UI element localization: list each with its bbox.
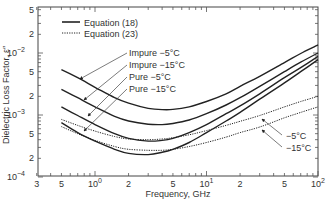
y-tick-label: 2 bbox=[29, 29, 34, 39]
annotation-label: Impure −15°C bbox=[129, 60, 185, 70]
curve-impure-15-c bbox=[61, 53, 318, 125]
x-tick-label: 100 bbox=[88, 177, 102, 189]
legend: Equation (18)Equation (23) bbox=[62, 18, 138, 39]
x-tick-label: 5 bbox=[282, 179, 287, 189]
y-tick-label: 5 bbox=[29, 129, 34, 139]
x-tick-label: 3 bbox=[34, 179, 39, 189]
x-axis-label: Frequency, GHz bbox=[146, 189, 211, 199]
axes: 3510025101251025210−25210−35210−4 bbox=[7, 5, 325, 189]
y-tick-label: 10−4 bbox=[7, 170, 25, 182]
curves bbox=[61, 45, 318, 155]
x-tick-label: 101 bbox=[200, 177, 214, 189]
annotation-leader bbox=[84, 89, 127, 131]
y-tick-label: 5 bbox=[29, 67, 34, 77]
x-tick-label: 2 bbox=[238, 179, 243, 189]
x-tick-label: 102 bbox=[311, 177, 325, 189]
y-tick-label: 2 bbox=[29, 91, 34, 101]
x-tick-label: 2 bbox=[126, 179, 131, 189]
annotations: Impure −5°CImpure −15°CPure −5°CPure −15… bbox=[80, 48, 312, 153]
y-axis-label: Dielectric Loss Factor, ε″ bbox=[1, 45, 11, 144]
legend-label: Equation (23) bbox=[84, 29, 138, 39]
curve-pure-5-c bbox=[61, 56, 318, 141]
annotation-label: Pure −5°C bbox=[129, 72, 171, 82]
chart-container: 3510025101251025210−25210−35210−4 Equati… bbox=[0, 0, 327, 200]
curve-impure-5-c bbox=[61, 45, 318, 110]
y-tick-label: 5 bbox=[29, 5, 34, 15]
annotation-label: Impure −5°C bbox=[129, 48, 180, 58]
x-tick-label: 5 bbox=[59, 179, 64, 189]
y-tick-label: 2 bbox=[29, 153, 34, 163]
annotation-leader bbox=[80, 53, 127, 79]
annotation-leader bbox=[84, 65, 127, 100]
x-tick-label: 5 bbox=[170, 179, 175, 189]
annotation-label: Pure −15°C bbox=[129, 84, 176, 94]
annotation-leader bbox=[88, 77, 127, 116]
annotation-label: −15°C bbox=[286, 143, 312, 153]
legend-label: Equation (18) bbox=[84, 18, 138, 28]
loss-factor-chart: 3510025101251025210−25210−35210−4 Equati… bbox=[0, 0, 327, 200]
plot-frame bbox=[38, 7, 318, 176]
annotation-label: −5°C bbox=[286, 131, 307, 141]
